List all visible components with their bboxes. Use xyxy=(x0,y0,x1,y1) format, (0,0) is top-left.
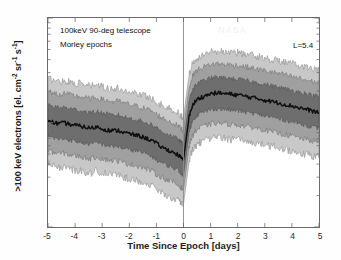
watermark-text: NASA xyxy=(218,25,247,35)
annotation-epochs: Morley epochs xyxy=(60,40,112,49)
ylabel-exp-s: -1 xyxy=(11,43,18,49)
x-axis-label: Time Since Epoch [days] xyxy=(47,240,320,251)
annotation-instrument: 100keV 90-deg telescope xyxy=(60,26,151,35)
x-axis-ticks: -5-4-3-2-1012345 xyxy=(0,0,341,260)
ylabel-exp-sr: -1 xyxy=(11,57,18,63)
y-axis-label: >100 keV electrons [el. cm-2 sr-1 s-1] xyxy=(11,21,23,211)
ylabel-post: s xyxy=(13,49,23,57)
annotation-lshell: L=5.4 xyxy=(293,41,313,50)
figure-container: 106105104 -5-4-3-2-1012345 Time Since Ep… xyxy=(0,0,341,260)
ylabel-mid: sr xyxy=(13,62,23,73)
ylabel-exp-cm: -2 xyxy=(11,74,18,80)
ylabel-close: ] xyxy=(13,40,23,43)
ylabel-pre: >100 keV electrons [el. cm xyxy=(13,79,23,191)
